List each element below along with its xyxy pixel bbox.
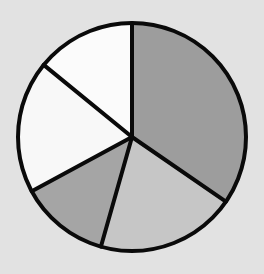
pie-chart [0,0,264,274]
pie-chart-canvas [0,0,264,274]
